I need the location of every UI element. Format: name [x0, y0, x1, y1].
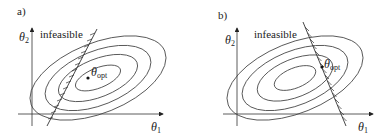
- y-axis-label: θ2: [225, 34, 235, 48]
- panel-a: a) infeasible θ2 θ1 θopt: [0, 0, 191, 139]
- x-axis-label: θ1: [358, 121, 368, 135]
- infeasible-label: infeasible: [254, 29, 297, 40]
- constraint-line: [303, 22, 346, 126]
- panel-label: a): [17, 6, 26, 17]
- optimum-label: θopt: [91, 66, 107, 80]
- optimum-label: θopt: [324, 58, 340, 72]
- x-axis-label: θ1: [151, 121, 161, 135]
- panel-b: b) infeasible θ2 θ1 θopt: [191, 0, 382, 139]
- y-axis-label: θ2: [19, 31, 29, 45]
- infeasible-label: infeasible: [40, 29, 83, 40]
- optimum-point: [86, 76, 89, 79]
- panel-label: b): [218, 10, 227, 21]
